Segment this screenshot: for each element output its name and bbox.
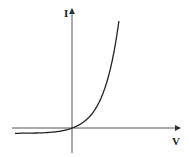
iv-curve xyxy=(15,21,119,133)
y-axis-label: I xyxy=(64,7,68,19)
iv-diagram: I V xyxy=(0,0,189,157)
x-axis-label: V xyxy=(172,135,180,147)
